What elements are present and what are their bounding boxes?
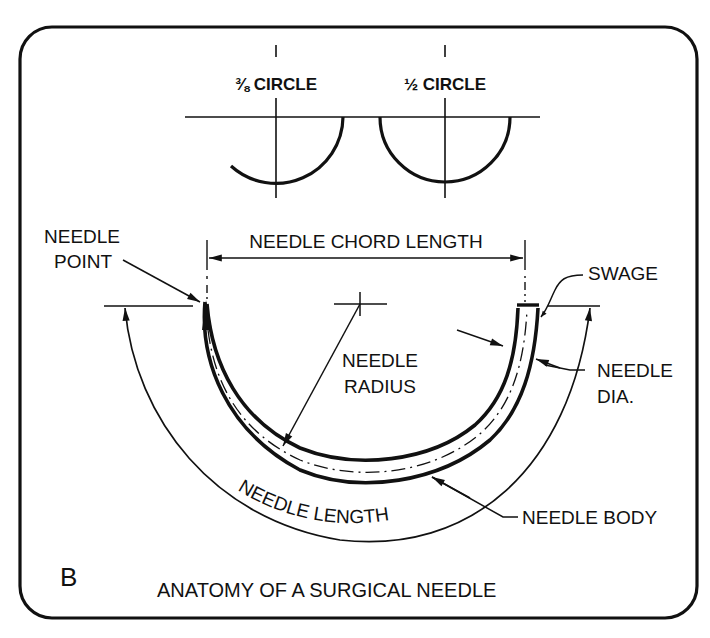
svg-text:NEEDLE: NEEDLE <box>342 350 418 371</box>
needle-body-callout: NEEDLE BODY <box>432 477 657 528</box>
arc-3-8-circle <box>231 117 343 183</box>
svg-text:NEEDLE BODY: NEEDLE BODY <box>522 507 657 528</box>
surgical-needle-diagram: ⅜ CIRCLE ½ CIRCLE NEEDLE CHORD LENGTH NE… <box>0 0 710 638</box>
label-1-2-circle: ½ CIRCLE <box>404 75 486 94</box>
svg-text:POINT: POINT <box>54 251 112 272</box>
figure-caption: ANATOMY OF A SURGICAL NEEDLE <box>157 579 496 601</box>
needle-diameter-callout: NEEDLE DIA. <box>457 330 673 407</box>
label-3-8-circle: ⅜ CIRCLE <box>235 75 317 94</box>
needle-point-callout: NEEDLE POINT <box>44 226 200 302</box>
svg-text:SWAGE: SWAGE <box>588 263 658 284</box>
curvature-examples: ⅜ CIRCLE ½ CIRCLE <box>185 45 540 198</box>
svg-text:NEEDLE: NEEDLE <box>597 360 673 381</box>
svg-text:NEEDLE: NEEDLE <box>44 226 120 247</box>
chord-length-label: NEEDLE CHORD LENGTH <box>249 231 482 252</box>
svg-text:DIA.: DIA. <box>597 386 634 407</box>
needle-radius-callout: NEEDLE RADIUS <box>283 292 418 446</box>
svg-text:RADIUS: RADIUS <box>344 376 416 397</box>
swage-callout: SWAGE <box>541 263 658 317</box>
panel-label: B <box>60 562 77 592</box>
figure-frame <box>20 27 697 618</box>
chord-length-dimension: NEEDLE CHORD LENGTH <box>207 231 525 302</box>
